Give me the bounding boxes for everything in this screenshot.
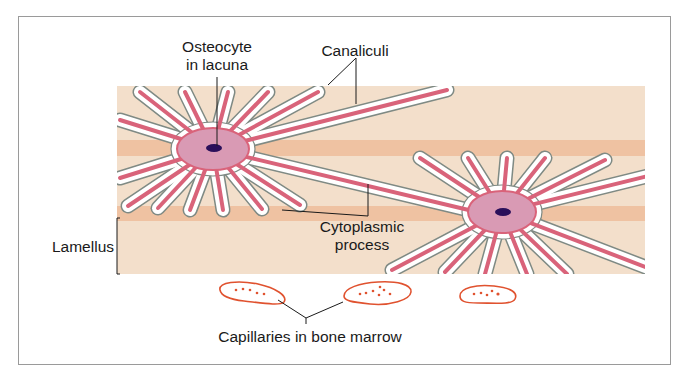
capillaries-leader [278,300,343,318]
nucleus-right [495,208,511,216]
lamellus-label: Lamellus [30,238,114,256]
capillary-1 [220,282,285,304]
osteocyte-label-line1: Osteocyte [170,38,264,56]
cytoplasmic-process-label: Cytoplasmic process [308,218,416,254]
cytoplasmic-label-line2: process [308,236,416,254]
osteocyte-label: Osteocyte in lacuna [170,38,264,74]
cytoplasmic-label-line1: Cytoplasmic [308,218,416,236]
capillary-2 [344,282,411,305]
osteocyte-label-line2: in lacuna [170,56,264,74]
canaliculi-label: Canaliculi [300,42,410,60]
nucleus-left [206,144,222,152]
capillaries-label: Capillaries in bone marrow [190,328,430,346]
